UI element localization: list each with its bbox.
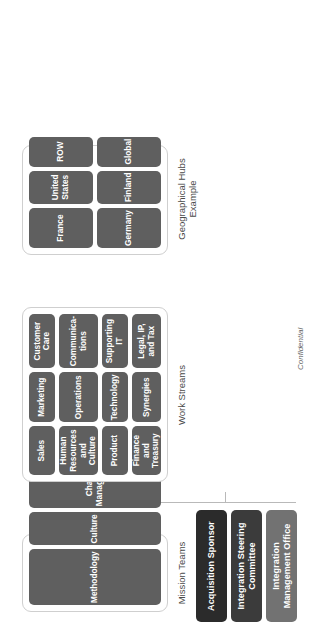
group-label-mission-teams: Mission Teams bbox=[176, 528, 187, 618]
node-sales[interactable]: Sales bbox=[29, 426, 55, 475]
node-human-resources-and-culture[interactable]: Human Resources and Culture bbox=[59, 426, 97, 475]
group-geographical-hubs-grid: France United States ROW Germany Finland… bbox=[29, 152, 161, 248]
node-finland[interactable]: Finland bbox=[97, 171, 161, 205]
node-france[interactable]: France bbox=[29, 208, 93, 248]
diagram-canvas: Acquisition Sponsor Integration Steering… bbox=[0, 0, 320, 640]
node-row[interactable]: ROW bbox=[29, 137, 93, 167]
node-methodology[interactable]: Methodology bbox=[29, 549, 161, 605]
node-germany[interactable]: Germany bbox=[97, 208, 161, 248]
leadership-box-acquisition-sponsor[interactable]: Acquisition Sponsor bbox=[196, 510, 227, 622]
node-customer-care[interactable]: Customer Care bbox=[29, 314, 55, 368]
group-work-streams-grid: Sales Marketing Customer Care Human Reso… bbox=[29, 314, 161, 475]
group-label-geographical-hubs: Geographical Hubs Example bbox=[176, 153, 198, 245]
node-global[interactable]: Global bbox=[97, 137, 161, 167]
node-legal-ip-and-tax[interactable]: Legal, IP, and Tax bbox=[132, 314, 161, 368]
group-work-streams: Sales Marketing Customer Care Human Reso… bbox=[22, 307, 168, 482]
node-synergies[interactable]: Synergies bbox=[132, 372, 161, 422]
node-culture[interactable]: Culture bbox=[29, 512, 161, 545]
connector-spur-geo bbox=[225, 492, 226, 503]
node-united-states[interactable]: United States bbox=[29, 171, 93, 205]
leadership-box-integration-steering-committee[interactable]: Integration Steering Committee bbox=[231, 510, 262, 622]
node-finance-and-treasury[interactable]: Finance and Treasury bbox=[132, 426, 161, 475]
leadership-stack: Acquisition Sponsor Integration Steering… bbox=[196, 510, 297, 622]
node-technology[interactable]: Technology bbox=[102, 372, 128, 422]
node-supporting-it[interactable]: Supporting IT bbox=[102, 314, 128, 368]
group-mission-teams-grid: Methodology Culture Change Management bbox=[29, 541, 161, 605]
node-operations[interactable]: Operations bbox=[59, 372, 97, 422]
confidential-note: Confidential bbox=[296, 328, 305, 370]
node-marketing[interactable]: Marketing bbox=[29, 372, 55, 422]
leadership-box-integration-management-office[interactable]: Integration Management Office bbox=[266, 510, 297, 622]
node-communications[interactable]: Communica-tions bbox=[59, 314, 97, 368]
node-product[interactable]: Product bbox=[102, 426, 128, 475]
diagram-stage: Acquisition Sponsor Integration Steering… bbox=[0, 0, 320, 640]
group-label-work-streams: Work Streams bbox=[176, 350, 187, 440]
group-mission-teams: Methodology Culture Change Management bbox=[22, 534, 168, 612]
group-geographical-hubs: France United States ROW Germany Finland… bbox=[22, 145, 168, 255]
